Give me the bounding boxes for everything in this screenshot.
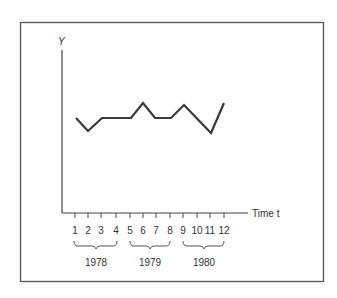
year-braces — [74, 241, 224, 249]
x-axis-label: Time t — [252, 208, 280, 219]
time-series-diagram: Y Time t 1 2 3 4 5 6 7 8 9 10 11 12 1978… — [0, 0, 337, 298]
x-tick-labels: 1 2 3 4 5 6 7 8 9 10 11 12 — [72, 225, 230, 236]
svg-text:5: 5 — [127, 225, 133, 236]
svg-text:6: 6 — [140, 225, 146, 236]
svg-text:9: 9 — [180, 225, 186, 236]
svg-text:8: 8 — [167, 225, 173, 236]
svg-text:1978: 1978 — [85, 257, 108, 268]
svg-text:7: 7 — [153, 225, 159, 236]
svg-text:12: 12 — [218, 225, 230, 236]
svg-text:1979: 1979 — [139, 257, 162, 268]
svg-text:1: 1 — [72, 225, 78, 236]
svg-text:4: 4 — [113, 225, 119, 236]
svg-text:1980: 1980 — [193, 257, 216, 268]
year-labels: 1978 1979 1980 — [85, 257, 216, 268]
svg-text:10: 10 — [191, 225, 203, 236]
svg-text:11: 11 — [205, 225, 216, 236]
svg-text:3: 3 — [98, 225, 104, 236]
time-series-line — [76, 103, 224, 133]
y-axis-label: Y — [58, 36, 66, 47]
figure-frame — [21, 23, 324, 282]
svg-text:2: 2 — [85, 225, 91, 236]
x-ticks — [75, 213, 224, 218]
